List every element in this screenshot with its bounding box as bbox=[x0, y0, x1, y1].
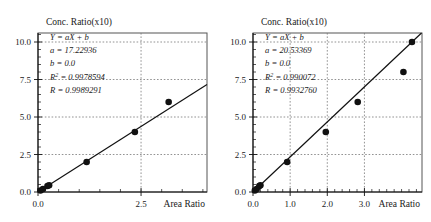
data-point bbox=[284, 159, 291, 166]
data-point bbox=[400, 69, 407, 76]
data-point bbox=[257, 182, 264, 189]
y-tick-label: 7.5 bbox=[235, 75, 247, 85]
y-axis-title: Conc. Ratio(x10) bbox=[261, 17, 327, 28]
fit-annotation: Y = aX + ba = 20.53369b = 0.0R2 = 0.9900… bbox=[264, 32, 318, 95]
x-tick-label: 2.5 bbox=[135, 199, 147, 209]
x-tick-label: 3.0 bbox=[359, 199, 371, 209]
x-tick-label: 1.0 bbox=[285, 199, 297, 209]
annotation-line-r: R = 0.9989291 bbox=[49, 85, 102, 95]
y-tick-labels: 0.02.55.07.510.0 bbox=[15, 37, 31, 197]
x-tick-labels: 0.01.02.03.0 bbox=[247, 199, 370, 209]
annotation-line-equation: Y = aX + b bbox=[265, 32, 305, 42]
data-point bbox=[409, 39, 416, 46]
data-point bbox=[165, 99, 172, 106]
y-tick-label: 10.0 bbox=[15, 37, 31, 47]
y-tick-label: 10.0 bbox=[230, 37, 246, 47]
y-tick-label: 7.5 bbox=[20, 75, 32, 85]
annotation-line-a: a = 20.53369 bbox=[265, 45, 312, 55]
annotation-line-b: b = 0.0 bbox=[50, 58, 76, 68]
calibration-plot-left: 0.02.55.07.510.00.02.5Conc. Ratio(x10)Ar… bbox=[0, 0, 215, 222]
x-axis-title: Area Ratio bbox=[164, 199, 206, 209]
regression-line bbox=[253, 33, 422, 192]
x-tick-label: 0.0 bbox=[32, 199, 44, 209]
x-tick-labels: 0.02.5 bbox=[32, 199, 147, 209]
data-point bbox=[354, 99, 361, 106]
data-point bbox=[132, 129, 139, 136]
y-axis-title: Conc. Ratio(x10) bbox=[46, 17, 112, 28]
calibration-figure: 0.02.55.07.510.00.02.5Conc. Ratio(x10)Ar… bbox=[0, 0, 431, 222]
plot-svg: 0.02.55.07.510.00.02.5Conc. Ratio(x10)Ar… bbox=[0, 0, 215, 222]
y-tick-label: 2.5 bbox=[235, 150, 247, 160]
gridlines bbox=[38, 33, 207, 192]
y-tick-label: 5.0 bbox=[235, 112, 247, 122]
annotation-line-r2: R2 = 0.9978594 bbox=[49, 72, 106, 82]
plot-svg: 0.02.55.07.510.00.01.02.03.0Conc. Ratio(… bbox=[215, 0, 430, 222]
data-point bbox=[323, 129, 330, 136]
x-tick-label: 0.0 bbox=[247, 199, 259, 209]
y-tick-label: 5.0 bbox=[20, 112, 32, 122]
y-tick-label: 0.0 bbox=[235, 187, 247, 197]
calibration-plot-right: 0.02.55.07.510.00.01.02.03.0Conc. Ratio(… bbox=[215, 0, 430, 222]
annotation-line-r: R = 0.9932760 bbox=[264, 85, 318, 95]
annotation-line-b: b = 0.0 bbox=[265, 58, 291, 68]
x-tick-label: 2.0 bbox=[322, 199, 334, 209]
y-tick-label: 2.5 bbox=[20, 150, 32, 160]
axis-lines bbox=[38, 33, 207, 192]
data-point bbox=[46, 182, 53, 189]
x-axis-title: Area Ratio bbox=[379, 199, 421, 209]
y-tick-labels: 0.02.55.07.510.0 bbox=[230, 37, 246, 197]
annotation-line-r2: R2 = 0.990072 bbox=[264, 72, 316, 82]
annotation-line-equation: Y = aX + b bbox=[50, 32, 90, 42]
regression-line bbox=[38, 84, 207, 192]
fit-annotation: Y = aX + ba = 17.22936b = 0.0R2 = 0.9978… bbox=[49, 32, 106, 95]
data-point bbox=[83, 159, 90, 166]
y-tick-label: 0.0 bbox=[20, 187, 32, 197]
annotation-line-a: a = 17.22936 bbox=[50, 45, 97, 55]
plot-frame bbox=[38, 33, 207, 192]
